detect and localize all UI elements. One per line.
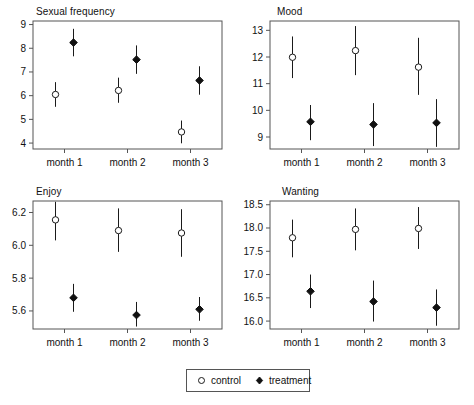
y-tick-label: 6.2 [12, 207, 26, 218]
x-tick-label: month 1 [46, 157, 83, 168]
open-circle-marker [197, 376, 206, 385]
y-tick-label: 5.8 [12, 273, 26, 284]
y-tick-label: 9 [257, 132, 263, 143]
data-point-filled-diamond [133, 56, 141, 64]
data-point-open-circle [115, 227, 121, 233]
y-tick-label: 17.5 [244, 246, 264, 257]
x-tick-label: month 1 [46, 337, 83, 348]
y-tick-label: 6 [20, 90, 26, 101]
x-tick-label: month 1 [283, 337, 320, 348]
y-tick-label: 10 [252, 105, 264, 116]
x-tick-label: month 2 [109, 157, 146, 168]
series-control [52, 78, 184, 144]
panel-title: Mood [277, 6, 302, 17]
data-point-filled-diamond [133, 311, 141, 319]
panel-title: Wanting [282, 186, 319, 197]
data-point-open-circle [52, 91, 58, 97]
series-control [289, 207, 421, 257]
filled-diamond-marker [255, 376, 264, 385]
y-tick-label: 7 [20, 66, 26, 77]
data-point-filled-diamond [70, 294, 78, 302]
series-treatment [307, 99, 441, 147]
data-point-filled-diamond [370, 298, 378, 306]
y-tick-label: 5 [20, 114, 26, 125]
y-tick-label: 18.5 [244, 199, 264, 210]
y-tick-label: 17.0 [244, 269, 264, 280]
panel-wanting: Wanting 16.016.517.017.518.018.5month 1m… [237, 180, 474, 360]
data-point-filled-diamond [196, 77, 204, 85]
y-tick-label: 8 [20, 43, 26, 54]
data-point-open-circle [115, 87, 121, 93]
data-point-open-circle [415, 64, 421, 70]
figure-canvas: Sexual frequency 456789month 1month 2mon… [0, 0, 474, 405]
plot-area: 456789month 1month 2month 3 [0, 0, 237, 180]
plot-area: 5.65.86.06.2month 1month 2month 3 [0, 180, 237, 360]
data-point-open-circle [178, 230, 184, 236]
panel-title: Sexual frequency [36, 6, 115, 17]
data-point-open-circle [415, 225, 421, 231]
legend-entry-treatment: treatment [255, 375, 311, 386]
y-tick-label: 11 [253, 78, 264, 89]
y-tick-label: 18.0 [244, 222, 264, 233]
data-point-open-circle [52, 217, 58, 223]
series-control [289, 26, 421, 95]
y-tick-label: 12 [252, 52, 264, 63]
x-tick-label: month 3 [409, 157, 446, 168]
data-point-filled-diamond [70, 39, 78, 47]
legend-label-control: control [211, 375, 241, 386]
data-point-filled-diamond [370, 121, 378, 129]
data-point-filled-diamond [433, 304, 441, 312]
x-tick-label: month 1 [283, 157, 320, 168]
data-point-open-circle [289, 235, 295, 241]
y-tick-label: 13 [252, 25, 264, 36]
y-tick-label: 5.6 [12, 305, 26, 316]
y-tick-label: 9 [20, 19, 26, 30]
data-point-filled-diamond [433, 119, 441, 127]
x-tick-label: month 2 [346, 157, 383, 168]
y-tick-label: 6.0 [12, 240, 26, 251]
x-tick-label: month 3 [172, 157, 209, 168]
panel-enjoy: Enjoy 5.65.86.06.2month 1month 2month 3 [0, 180, 237, 360]
data-point-filled-diamond [307, 287, 315, 295]
x-tick-label: month 2 [346, 337, 383, 348]
y-tick-label: 16.0 [244, 316, 264, 327]
panel-sexual-frequency: Sexual frequency 456789month 1month 2mon… [0, 0, 237, 180]
series-treatment [70, 284, 204, 327]
plot-area: 16.016.517.017.518.018.5month 1month 2mo… [237, 180, 474, 360]
data-point-open-circle [352, 226, 358, 232]
series-treatment [70, 29, 204, 95]
legend-label-treatment: treatment [269, 375, 311, 386]
x-tick-label: month 3 [409, 337, 446, 348]
data-point-open-circle [178, 129, 184, 135]
data-point-open-circle [352, 47, 358, 53]
data-point-filled-diamond [307, 118, 315, 126]
series-treatment [307, 275, 441, 326]
panel-title: Enjoy [36, 186, 62, 197]
series-control [52, 202, 184, 257]
y-tick-label: 4 [20, 138, 26, 149]
panel-mood: Mood 910111213month 1month 2month 3 [237, 0, 474, 180]
x-tick-label: month 2 [109, 337, 146, 348]
legend-entry-control: control [197, 375, 241, 386]
data-point-open-circle [289, 54, 295, 60]
x-tick-label: month 3 [172, 337, 209, 348]
chart-legend: control treatment [186, 369, 310, 392]
y-tick-label: 16.5 [244, 292, 264, 303]
plot-area: 910111213month 1month 2month 3 [237, 0, 474, 180]
data-point-filled-diamond [196, 306, 204, 314]
